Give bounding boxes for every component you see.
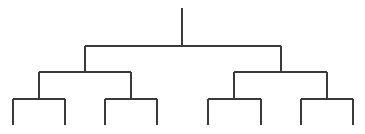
tree-edges [13, 8, 353, 125]
tree-diagram [0, 0, 365, 134]
